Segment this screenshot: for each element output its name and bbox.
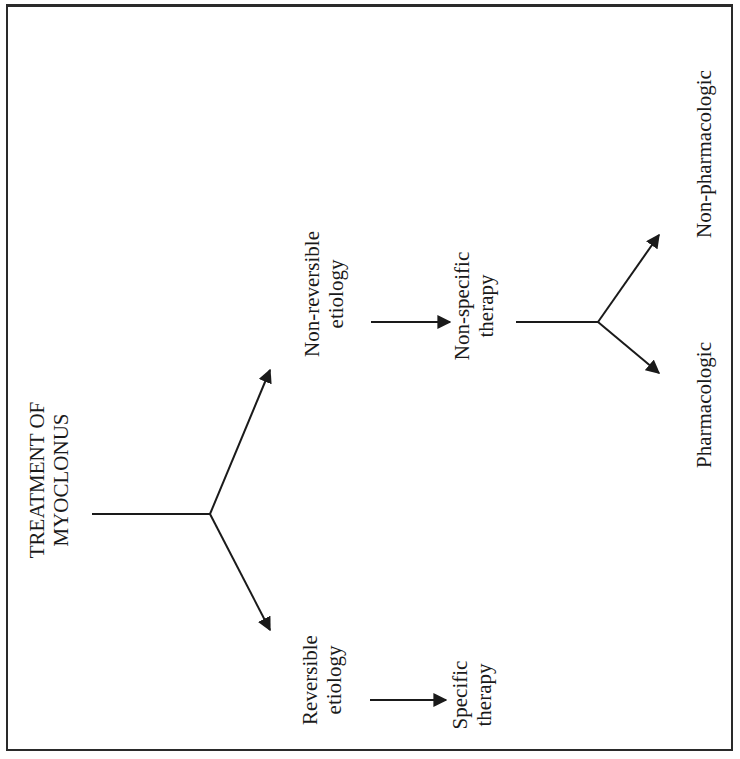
node-pharmacologic: Pharmacologic [692,342,716,468]
arrow-to-pharmacologic [598,322,659,373]
arrow-to-non-reversible [210,370,270,514]
root-title-line2: MYOCLONUS [49,360,73,600]
root-title-line1: TREATMENT OF [25,360,49,600]
node-specific-therapy: Specific therapy [448,652,496,738]
node-non-specific-therapy: Non-specific therapy [450,240,498,372]
arrow-to-reversible [210,514,270,630]
node-non-reversible-etiology: Non-reversible etiology [300,220,348,368]
flow-connectors [0,0,740,759]
root-title: TREATMENT OF MYOCLONUS [25,360,73,600]
node-reversible-etiology: Reversible etiology [298,620,346,740]
arrow-to-non-pharmacologic [598,235,659,322]
node-non-pharmacologic: Non-pharmacologic [692,70,716,238]
